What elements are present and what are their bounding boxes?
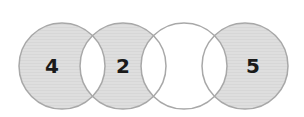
circle-4-label: 5: [246, 54, 260, 78]
venn-chain-diagram: 4 2 5: [0, 0, 304, 117]
circle-2-label: 2: [116, 54, 130, 78]
circle-1-label: 4: [45, 54, 59, 78]
